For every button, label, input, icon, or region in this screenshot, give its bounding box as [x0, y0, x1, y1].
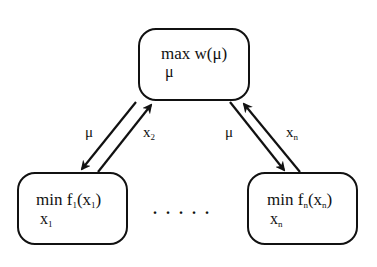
- subn-var: x: [270, 210, 278, 227]
- subn-func-index: n: [303, 200, 308, 210]
- xn-label: x: [286, 124, 294, 140]
- subproblem-n-node: min fn(xn) xn: [247, 172, 358, 245]
- sub1-op: min: [36, 190, 62, 209]
- edge-label-mu-right: μ: [225, 125, 233, 140]
- subn-arg-index: n: [322, 200, 327, 210]
- subn-arg: x: [314, 190, 323, 209]
- edge-label-x2: x2: [143, 125, 155, 145]
- x2-label-index: 2: [151, 132, 156, 142]
- edge-label-xn: xn: [286, 125, 298, 145]
- master-objective: max w(μ): [161, 45, 227, 62]
- xn-label-index: n: [294, 132, 299, 142]
- edge-label-mu-left: μ: [85, 125, 93, 140]
- master-func: w(μ): [195, 44, 228, 63]
- sub1-var: x: [40, 210, 48, 227]
- master-node: max w(μ) μ: [138, 28, 250, 101]
- sub1-arg-index: 1: [91, 200, 96, 210]
- sub1-var-index: 1: [48, 219, 53, 229]
- x2-label: x: [143, 124, 151, 140]
- sub1-arg: x: [83, 190, 92, 209]
- subn-op: min: [267, 190, 293, 209]
- sub1-func-index: 1: [72, 200, 77, 210]
- subproblem-1-var: x1: [40, 211, 53, 232]
- arrow-mu-to-subn: [230, 102, 284, 170]
- subn-var-index: n: [278, 219, 283, 229]
- ellipsis: .....: [153, 200, 218, 218]
- master-op: max: [161, 44, 190, 63]
- subproblem-1-node: min f1(x1) x1: [17, 172, 128, 245]
- subproblem-n-var: xn: [270, 211, 283, 232]
- master-var: μ: [165, 64, 174, 80]
